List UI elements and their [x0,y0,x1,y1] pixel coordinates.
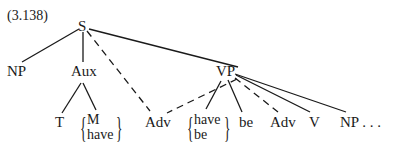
edge-vp-be [228,80,242,112]
node-np: NP [7,64,26,79]
node-aux: Aux [71,64,97,79]
node-s: S [78,19,86,34]
right-brace: } [224,112,230,142]
edge-vp-have [206,81,221,109]
node-t: T [55,115,64,130]
edge-aux-t [62,83,81,113]
vp-choice-be: be [194,127,207,142]
aux-choice-m: M [87,112,99,127]
edge-vp-adv-right [235,78,278,112]
aux-choice-have: have [87,127,113,142]
node-adv-vp: Adv [270,115,296,130]
edge-s-np [22,29,79,62]
vp-choice-have: have [194,112,220,127]
node-vp: VP [216,64,235,79]
left-brace: { [187,112,193,142]
node-adv-sentence: Adv [145,115,171,130]
edge-vp-adv-left [167,79,237,113]
node-be: be [239,115,253,130]
left-brace: { [80,112,86,142]
right-brace: } [116,112,122,142]
node-np-vp: NP . . . [340,115,381,130]
edge-vp-v [236,75,310,112]
example-number: (3.138) [7,8,48,23]
node-v: V [309,115,320,130]
edge-vp-np [235,74,346,112]
edge-aux-m [83,83,96,110]
